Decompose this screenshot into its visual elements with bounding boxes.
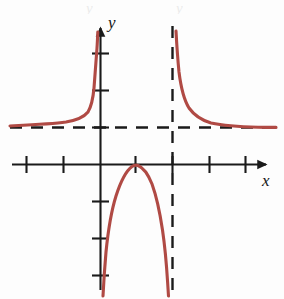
asymptotes-group [10, 26, 278, 296]
curve-right-branch [176, 31, 276, 127]
plot-area [0, 0, 284, 299]
curve-left-branch [10, 32, 98, 126]
x-axis-label: x [262, 172, 270, 189]
graph-figure: y y [0, 0, 284, 299]
axes-group [12, 28, 266, 290]
curve-middle-branch [103, 165, 169, 296]
y-axis-label: y [108, 14, 116, 31]
